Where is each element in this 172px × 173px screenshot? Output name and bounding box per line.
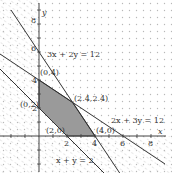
hatch-left-region [0,0,39,173]
vertex-label-2_4-2_4: (2.4,2.4) [74,94,108,103]
vertex-label-4-0: (4,0) [96,126,115,135]
vertex-label-2-0: (2,0) [46,126,65,135]
vertex-label-0-2: (0,2) [20,100,39,109]
tick-label-x-2: 2 [64,139,69,148]
tick-label-y-8: 8 [31,16,36,25]
tick-label-x-6: 6 [120,139,125,148]
vertex-label-0-4: (0,4) [40,68,59,77]
tick-label-x-4: 4 [92,139,97,148]
equation-label-x-y-2: x + y = 2 [56,156,94,165]
tick-label-y-4: 4 [32,76,37,85]
linear-programming-graph: 2 4 6 8 2 4 6 8 x y 3x + 2y = 12 2x + 3y… [0,0,172,173]
equation-label-2x-3y-12: 2x + 3y = 12 [111,116,164,125]
equation-label-3x-2y-12: 3x + 2y = 12 [47,50,100,59]
y-axis-label: y [41,8,47,17]
x-axis-label: x [158,127,163,136]
tick-label-y-6: 6 [31,44,36,53]
tick-label-x-8: 8 [148,139,153,148]
